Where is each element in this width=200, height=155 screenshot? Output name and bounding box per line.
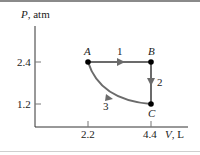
point-label-a: A [83,45,91,57]
point-label-b: B [148,45,155,57]
path-label-3: 3 [103,100,109,112]
point-a [85,59,91,65]
y-axis-label: P, atm [20,8,50,20]
path-label-1: 1 [117,45,123,57]
point-b [148,59,154,65]
x-tick-label-2.2: 2.2 [81,128,95,140]
x-tick-label-4.4: 4.4 [143,128,157,140]
arrow-1-icon [117,58,125,66]
y-tick-label-2.4: 2.4 [17,56,31,68]
point-label-c: C [148,107,156,119]
x-axis-label: V, L [165,128,184,140]
pv-diagram: P, atm V, L 2.4 1.2 2.2 4.4 A B C 1 2 3 [0,0,200,155]
arrow-2-icon [147,78,155,86]
path-label-2: 2 [157,76,163,88]
path-3-c-to-a [88,62,151,104]
point-c [148,101,154,107]
y-tick-label-1.2: 1.2 [17,98,31,110]
